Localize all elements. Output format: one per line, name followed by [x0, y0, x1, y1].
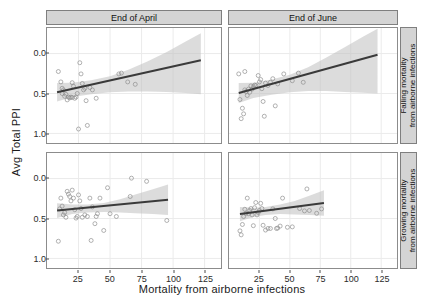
data-point: [59, 196, 63, 200]
y-axis-ticks-top: 1.00.50.0: [12, 27, 46, 144]
x-tick-mark: [320, 270, 321, 273]
facet-strip-line1: Falling mortality: [400, 44, 409, 128]
x-tick-mark: [173, 270, 174, 273]
panel-plot-area: [47, 153, 221, 268]
y-tick-label: 0.5: [18, 214, 46, 224]
data-point: [85, 123, 89, 127]
data-point: [261, 223, 265, 227]
y-axis-ticks-bottom: 1.00.50.0: [12, 152, 46, 269]
data-point: [106, 186, 110, 190]
panel-june-growing: [228, 152, 398, 269]
data-point: [239, 233, 243, 237]
y-tick-mark: [46, 218, 49, 219]
data-point: [243, 70, 247, 74]
y-tick-mark: [46, 259, 49, 260]
data-point: [145, 179, 149, 183]
data-point: [114, 214, 118, 218]
panel-plot-area: [47, 28, 221, 143]
data-point: [242, 112, 246, 116]
x-axis-ticks-right: 255075100125: [228, 270, 398, 286]
y-tick-mark: [46, 178, 49, 179]
y-tick-mark: [46, 134, 49, 135]
facet-strip-end-of-june: End of June: [228, 10, 398, 25]
data-point: [70, 188, 74, 192]
data-point: [305, 187, 309, 191]
facet-strip-falling-mortality: Falling mortality from airborne infectio…: [400, 27, 417, 144]
data-point: [94, 96, 98, 100]
x-tick-mark: [205, 270, 206, 273]
data-point: [88, 196, 92, 200]
data-point: [285, 225, 289, 229]
x-tick-mark: [141, 270, 142, 273]
data-point: [254, 201, 258, 205]
data-point: [282, 72, 286, 76]
y-tick-mark: [46, 53, 49, 54]
data-point: [245, 196, 249, 200]
facet-strip-label: Growing mortality from airborne infectio…: [400, 169, 417, 253]
data-point: [290, 225, 294, 229]
x-axis-ticks-left: 255075100125: [46, 270, 222, 286]
x-tick-label: 50: [275, 274, 305, 284]
y-tick-label: 0.5: [18, 89, 46, 99]
x-tick-label: 100: [336, 274, 366, 284]
x-tick-label: 25: [63, 274, 93, 284]
x-tick-mark: [289, 270, 290, 273]
data-point: [89, 238, 93, 242]
data-point: [261, 99, 265, 103]
data-point: [262, 114, 266, 118]
data-point: [237, 72, 241, 76]
x-tick-mark: [351, 270, 352, 273]
data-point: [240, 222, 244, 226]
data-point: [238, 229, 242, 233]
x-tick-label: 50: [95, 274, 125, 284]
facet-strip-line1: Growing mortality: [400, 169, 409, 253]
y-tick-label: 0.0: [18, 173, 46, 183]
data-point: [240, 106, 244, 110]
data-point: [71, 196, 75, 200]
y-tick-mark: [46, 93, 49, 94]
data-point: [56, 239, 60, 243]
x-tick-label: 25: [244, 274, 274, 284]
data-point: [56, 70, 60, 74]
facet-strip-label: End of April: [111, 13, 157, 23]
data-point: [98, 196, 102, 200]
y-tick-label: 0.0: [18, 48, 46, 58]
y-tick-label: 1.0: [18, 129, 46, 139]
panel-april-falling: [46, 27, 222, 144]
data-point: [281, 196, 285, 200]
data-point: [251, 224, 255, 228]
x-tick-mark: [77, 270, 78, 273]
panel-plot-area: [229, 28, 397, 143]
data-point: [165, 218, 169, 222]
panel-plot-area: [229, 153, 397, 268]
data-point: [93, 222, 97, 226]
x-tick-label: 125: [367, 274, 397, 284]
facet-strip-line2: from airborne infections: [409, 169, 418, 253]
data-point: [84, 99, 88, 103]
x-tick-label: 100: [159, 274, 189, 284]
x-tick-mark: [381, 270, 382, 273]
facet-strip-line2: from airborne infections: [409, 44, 418, 128]
x-tick-label: 125: [190, 274, 220, 284]
data-point: [102, 228, 106, 232]
data-point: [79, 72, 83, 76]
x-tick-mark: [109, 270, 110, 273]
panel-june-falling: [228, 27, 398, 144]
facet-strip-growing-mortality: Growing mortality from airborne infectio…: [400, 152, 417, 269]
y-tick-label: 1.0: [18, 254, 46, 264]
facet-strip-label: Falling mortality from airborne infectio…: [400, 44, 417, 128]
facet-strip-end-of-april: End of April: [46, 10, 222, 25]
x-tick-mark: [258, 270, 259, 273]
x-tick-label: 75: [127, 274, 157, 284]
panel-april-growing: [46, 152, 222, 269]
data-point: [273, 104, 277, 108]
data-point: [239, 117, 243, 121]
chart-figure: End of April End of June Falling mortali…: [0, 0, 432, 303]
facet-strip-label: End of June: [289, 13, 337, 23]
x-tick-label: 75: [305, 274, 335, 284]
